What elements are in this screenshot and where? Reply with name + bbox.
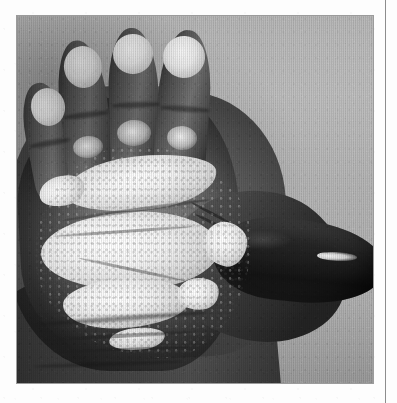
clinical-photograph bbox=[17, 16, 373, 383]
column-rule bbox=[385, 0, 386, 403]
scanned-page bbox=[0, 0, 397, 403]
hand bbox=[17, 16, 373, 383]
